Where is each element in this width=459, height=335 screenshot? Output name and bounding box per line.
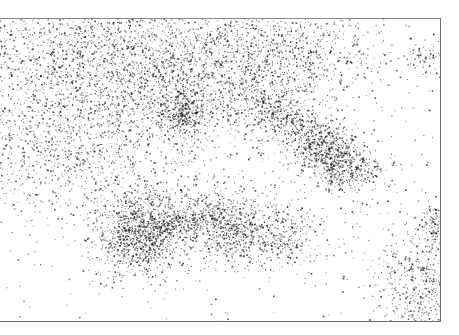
- scatter-plot-area: [0, 18, 441, 322]
- scatter-points-canvas: [0, 19, 441, 322]
